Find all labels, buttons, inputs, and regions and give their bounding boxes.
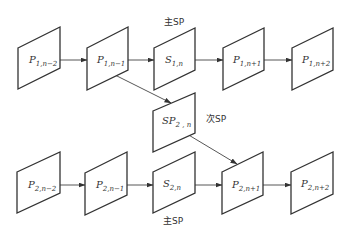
- frame-p2-n+2: P2,n+2: [291, 152, 333, 214]
- primary-sp-label-bottom: 主SP: [163, 215, 184, 226]
- frame-s2-n: S2,n: [153, 152, 195, 213]
- frame-p2-n-2: P2,n−2: [17, 152, 60, 213]
- row-1: P1,n−2 P1,n−1 S1,n P1,n+1 P1,n+2: [18, 27, 333, 90]
- frame-p1-n+2: P1,n+2: [292, 28, 333, 90]
- middle-row: SP2 , n: [153, 93, 195, 152]
- frame-p1-n+1: P1,n+1: [223, 28, 264, 90]
- frame-dependency-diagram: P1,n−2 P1,n−1 S1,n P1,n+1 P1,n+2 SP2 , n…: [0, 0, 348, 233]
- frame-s1-n: S1,n: [154, 28, 195, 90]
- frame-sp2-n: SP2 , n: [153, 93, 195, 152]
- secondary-sp-label: 次SP: [206, 113, 227, 124]
- frame-p2-n+1: P2,n+1: [222, 152, 263, 214]
- frame-p2-n-1: P2,n−1: [85, 152, 127, 215]
- frame-p1-n-1: P1,n−1: [87, 27, 128, 90]
- frame-p1-n-2: P1,n−2: [18, 27, 60, 89]
- primary-sp-label-top: 主SP: [164, 16, 185, 27]
- row-2: P2,n−2 P2,n−1 S2,n P2,n+1 P2,n+2: [17, 152, 333, 215]
